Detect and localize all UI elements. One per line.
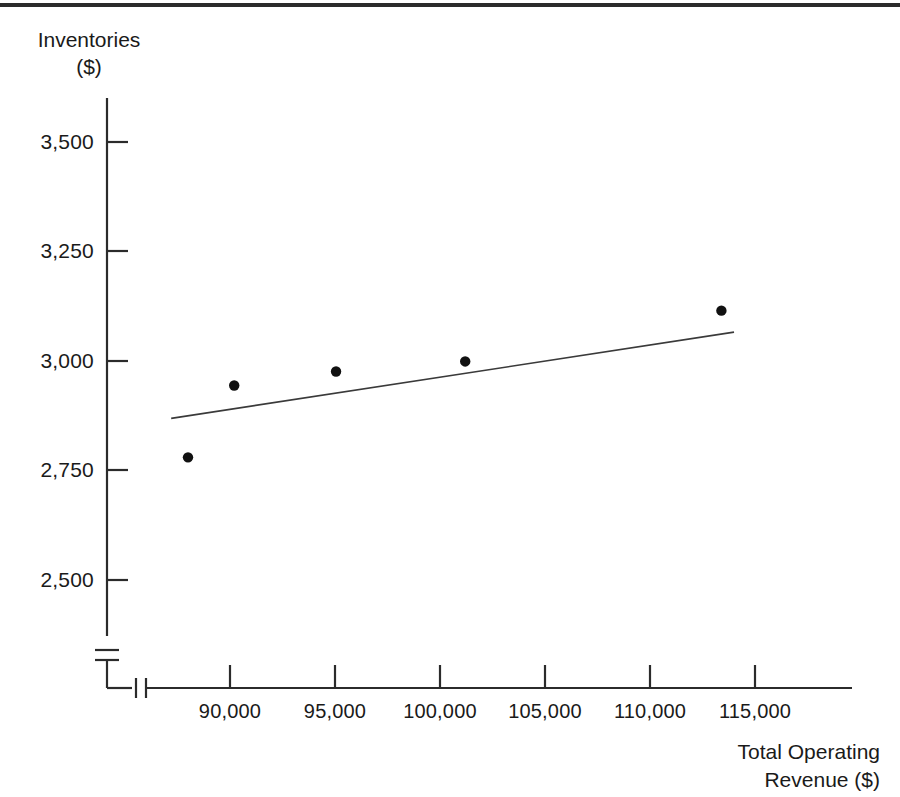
chart-figure: Inventories ($) Total Operating Revenue …	[0, 0, 900, 797]
data-point-marker	[460, 356, 470, 366]
data-series-layer	[171, 305, 734, 462]
data-point-marker	[229, 380, 239, 390]
data-point-marker	[331, 366, 341, 376]
y-tick-marks	[107, 142, 128, 580]
x-axis-break-icon	[136, 678, 146, 698]
x-tick-marks	[230, 665, 755, 688]
y-axis-break-icon	[95, 650, 119, 660]
trend-line	[171, 332, 734, 418]
data-point-marker	[183, 452, 193, 462]
data-point-marker	[716, 305, 726, 315]
